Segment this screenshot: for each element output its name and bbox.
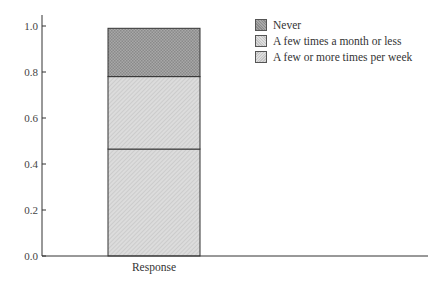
x-category-label: Response — [108, 261, 200, 273]
legend: Never A few times a month or less A few … — [255, 17, 412, 65]
bar-segment-never — [108, 28, 200, 76]
y-tick-label: 0.0 — [24, 250, 38, 262]
bars — [108, 28, 200, 256]
y-tick-label: 0.4 — [24, 158, 38, 170]
y-tick-label: 0.8 — [24, 66, 38, 78]
bar-segment-few-times-month — [108, 77, 200, 149]
y-tick-label: 0.6 — [24, 112, 38, 124]
legend-label: Never — [273, 19, 301, 31]
legend-label: A few or more times per week — [273, 51, 412, 63]
y-axis: 0.00.20.40.60.81.0 — [24, 15, 46, 262]
legend-item-never: Never — [255, 17, 412, 33]
legend-swatch-never — [255, 19, 267, 31]
legend-swatch-few-times-week — [255, 51, 267, 63]
y-tick-label: 0.2 — [24, 204, 38, 216]
y-tick-label: 1.0 — [24, 20, 38, 32]
legend-item-few-times-week: A few or more times per week — [255, 49, 412, 65]
legend-swatch-few-times-month — [255, 35, 267, 47]
bar-segment-few-times-week — [108, 149, 200, 256]
legend-label: A few times a month or less — [273, 35, 401, 47]
legend-item-few-times-month: A few times a month or less — [255, 33, 412, 49]
